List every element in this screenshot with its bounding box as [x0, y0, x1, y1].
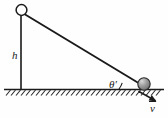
- ground-hatching: [6, 90, 161, 96]
- incline-line: [24, 14, 142, 85]
- angle-arc: [119, 83, 122, 89]
- velocity-symbol: v: [150, 103, 155, 114]
- angle-prime-symbol: ′: [114, 78, 116, 90]
- velocity-label: v: [150, 103, 155, 114]
- pivot-circle-icon: [16, 5, 27, 16]
- height-label: h: [12, 50, 18, 61]
- diagram-canvas: [0, 0, 168, 118]
- physics-diagram: h θ′ v: [0, 0, 168, 118]
- ball-icon: [138, 78, 150, 90]
- angle-label: θ′: [109, 79, 117, 90]
